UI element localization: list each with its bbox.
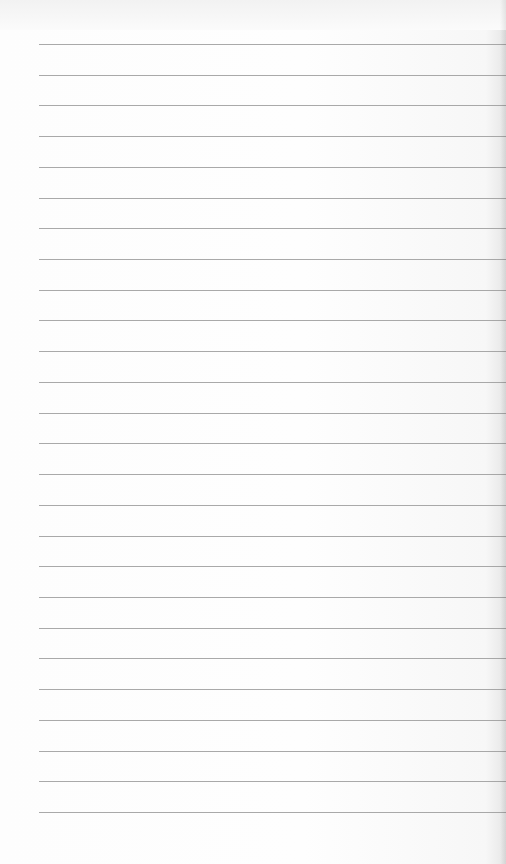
- ruled-line: [39, 44, 506, 45]
- ruled-line: [39, 505, 506, 506]
- ruled-line: [39, 781, 506, 782]
- ruled-line: [39, 597, 506, 598]
- right-edge-shadow: [500, 0, 506, 864]
- ruled-line: [39, 228, 506, 229]
- ruled-line: [39, 443, 506, 444]
- ruled-line: [39, 566, 506, 567]
- ruled-line: [39, 812, 506, 813]
- ruled-line: [39, 382, 506, 383]
- ruled-line: [39, 105, 506, 106]
- ruled-line: [39, 720, 506, 721]
- ruled-line: [39, 75, 506, 76]
- ruled-line: [39, 689, 506, 690]
- ruled-line: [39, 259, 506, 260]
- ruled-line: [39, 536, 506, 537]
- ruled-line: [39, 658, 506, 659]
- ruled-line: [39, 167, 506, 168]
- ruled-line: [39, 628, 506, 629]
- ruled-line: [39, 136, 506, 137]
- ruled-line: [39, 474, 506, 475]
- ruled-line: [39, 290, 506, 291]
- notepad-sheet: [0, 0, 506, 864]
- ruled-line: [39, 320, 506, 321]
- ruled-line: [39, 198, 506, 199]
- ruled-line: [39, 751, 506, 752]
- ruled-line: [39, 351, 506, 352]
- top-shadow: [0, 0, 506, 30]
- ruled-line: [39, 413, 506, 414]
